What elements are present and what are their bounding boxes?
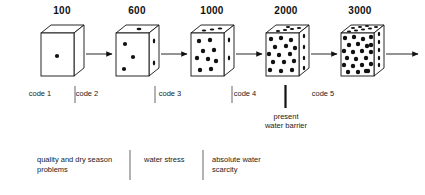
scale-label-2000: 2000 bbox=[256, 5, 316, 16]
code-label-4: code 4 bbox=[215, 89, 275, 98]
cube-1-dots bbox=[55, 54, 59, 58]
category-label-water-stress: water stress bbox=[144, 155, 204, 165]
scale-label-3000: 3000 bbox=[330, 5, 390, 16]
category-label-quality-dry-season: quality and dry season problems bbox=[37, 155, 132, 174]
code-label-2: code 2 bbox=[57, 89, 117, 98]
cube-5 bbox=[341, 25, 384, 76]
code-label-3: code 3 bbox=[140, 89, 200, 98]
cube-2 bbox=[116, 25, 159, 76]
scale-label-600: 600 bbox=[107, 5, 167, 16]
present-water-barrier-note: present water barrier bbox=[241, 112, 331, 130]
code-label-5: code 5 bbox=[293, 89, 353, 98]
scale-label-1000: 1000 bbox=[182, 5, 242, 16]
cube-4 bbox=[266, 25, 309, 76]
barrier-note-line-1: present bbox=[241, 112, 331, 121]
cube-3 bbox=[191, 25, 234, 76]
water-scarcity-diagram: 100 600 1000 2000 3000 code 1 code 2 cod… bbox=[0, 0, 425, 195]
scale-label-100: 100 bbox=[32, 5, 92, 16]
barrier-note-line-2: water barrier bbox=[241, 121, 331, 130]
cube-1 bbox=[41, 25, 84, 76]
category-label-absolute-water-scarcity: absolute water scarcity bbox=[212, 155, 292, 174]
